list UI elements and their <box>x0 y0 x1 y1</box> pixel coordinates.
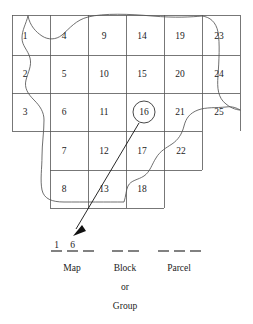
grid-cell-19: 19 <box>175 31 185 41</box>
leader-arrowhead <box>73 225 86 236</box>
grid-cell-16-highlighted: 16 <box>139 107 149 117</box>
grid-cell-5: 5 <box>62 69 67 79</box>
grid-cell-25: 25 <box>214 107 224 117</box>
grid-cell-14: 14 <box>137 31 147 41</box>
grid-cell-9: 9 <box>102 31 107 41</box>
grid-cell-11: 11 <box>99 107 108 117</box>
leader-line <box>76 123 139 229</box>
caption-group: Group <box>113 301 138 311</box>
grid-cell-20: 20 <box>175 69 185 79</box>
grid-cell-1: 1 <box>23 31 28 41</box>
grid-cell-15: 15 <box>137 69 147 79</box>
grid-cell-13: 13 <box>99 184 109 194</box>
grid-cell-22: 22 <box>176 146 186 156</box>
grid-cell-21: 21 <box>175 107 185 117</box>
grid-lines <box>12 15 240 208</box>
grid-cell-6: 6 <box>62 107 67 117</box>
grid-cell-3: 3 <box>23 107 28 117</box>
irregular-parcel-boundary <box>22 14 240 202</box>
grid-cell-7: 7 <box>62 146 67 156</box>
map-blank-2-value: 6 <box>70 240 75 250</box>
figure-canvas: 1 4 9 14 19 23 2 5 10 15 20 24 3 6 11 16… <box>0 0 253 324</box>
caption-block: Block <box>114 263 137 273</box>
map-blank-1-value: 1 <box>54 240 59 250</box>
boundary-path <box>22 14 240 202</box>
grid-cell-8: 8 <box>62 184 67 194</box>
caption-parcel: Parcel <box>167 263 191 273</box>
caption-or: or <box>121 282 130 292</box>
grid-cell-17: 17 <box>137 146 147 156</box>
grid-cell-2: 2 <box>23 69 28 79</box>
grid-cell-24: 24 <box>214 69 224 79</box>
grid-cell-10: 10 <box>99 69 109 79</box>
parcel-identifier-blanks: 1 6 <box>51 240 201 251</box>
grid-cell-18: 18 <box>137 184 147 194</box>
identifier-group-map[interactable]: 1 6 <box>51 240 94 251</box>
leader-arrow <box>73 123 139 236</box>
caption-map: Map <box>63 263 81 273</box>
identifier-captions: Map Block Parcel or Group <box>63 263 191 311</box>
grid-cell-12: 12 <box>99 146 109 156</box>
grid-cell-23: 23 <box>214 31 224 41</box>
tax-map-parcel-figure: 1 4 9 14 19 23 2 5 10 15 20 24 3 6 11 16… <box>0 0 253 324</box>
grid-cell-4: 4 <box>62 31 67 41</box>
